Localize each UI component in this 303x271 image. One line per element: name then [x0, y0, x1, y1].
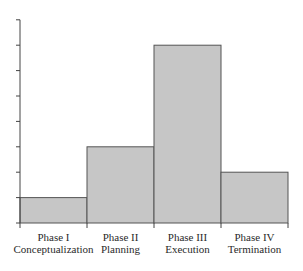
x-label-phase: Phase III — [168, 231, 208, 243]
bar-1 — [20, 198, 87, 223]
bar-2 — [87, 147, 154, 223]
x-label-name: Planning — [101, 243, 141, 255]
bar-4 — [221, 172, 288, 223]
x-axis-ticks — [87, 223, 288, 228]
x-label-name: Execution — [165, 243, 210, 255]
x-label-phase: Phase IV — [234, 231, 274, 243]
x-label-name: Termination — [228, 243, 282, 255]
x-label-phase: Phase II — [103, 231, 139, 243]
x-label-name: Conceptualization — [13, 243, 94, 255]
x-axis-labels: Phase IConceptualizationPhase IIPlanning… — [13, 231, 281, 255]
bars — [20, 45, 288, 223]
bar-3 — [154, 45, 221, 223]
y-axis — [16, 20, 20, 228]
bar-chart: Phase IConceptualizationPhase IIPlanning… — [0, 0, 303, 271]
x-label-phase: Phase I — [37, 231, 69, 243]
